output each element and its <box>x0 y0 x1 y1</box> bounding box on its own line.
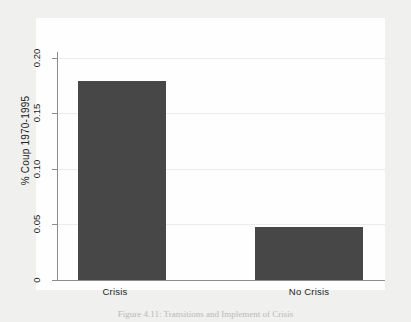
bar-no-crisis[interactable] <box>255 227 363 280</box>
x-tick-label-no-crisis-text: No Crisis <box>289 286 329 297</box>
figure-caption: Figure 4.11: Transitions and Implement o… <box>0 309 411 322</box>
y-tick-label-015: 0.15 <box>31 104 42 123</box>
y-axis-title: % Coup 1970-1995 <box>18 0 34 280</box>
y-tick-label-005: 0.05 <box>31 215 42 234</box>
x-tick-label-crisis-text: Crisis <box>103 286 128 297</box>
y-tick-label-000: 0 <box>31 277 42 282</box>
x-axis-line <box>57 280 385 281</box>
bar-crisis[interactable] <box>78 81 166 280</box>
x-tick-label-crisis: Crisis <box>48 286 182 297</box>
y-tick-label-020: 0.20 <box>31 49 42 68</box>
bars-layer <box>57 55 385 280</box>
x-tick-label-no-crisis: No Crisis <box>242 286 376 297</box>
figure-page: % Coup 1970-1995 0.20 0.15 0.10 0.05 0 C… <box>0 0 411 322</box>
y-tick-label-010: 0.10 <box>31 160 42 179</box>
y-tick-mark-000 <box>52 280 57 281</box>
